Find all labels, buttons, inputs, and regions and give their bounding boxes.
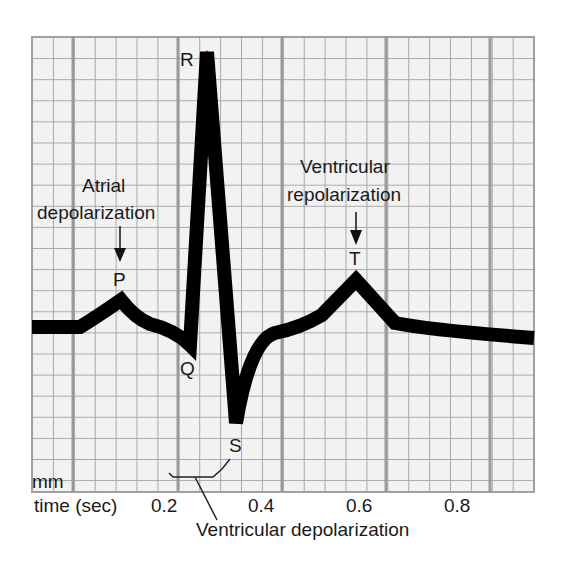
atrial-label-line1: Atrial	[82, 175, 125, 196]
unit-label-mm: mm	[32, 471, 64, 492]
axis-title-time: time (sec)	[34, 495, 117, 516]
ventricular-repol-line2: repolarization	[287, 184, 401, 205]
wave-label-s: S	[229, 435, 242, 456]
wave-label-t: T	[349, 248, 361, 269]
wave-label-q: Q	[180, 358, 195, 379]
ventricular-repol-line1: Ventricular	[300, 156, 390, 177]
ecg-diagram: R P Q S T Atrial depolarization Ventricu…	[0, 0, 561, 574]
tick-0-6: 0.6	[346, 495, 372, 516]
tick-0-4: 0.4	[248, 495, 275, 516]
tick-0-2: 0.2	[151, 495, 177, 516]
wave-label-p: P	[113, 269, 126, 290]
wave-label-r: R	[180, 49, 194, 70]
ventricular-depol-label: Ventricular depolarization	[196, 519, 409, 540]
tick-0-8: 0.8	[444, 495, 470, 516]
ecg-grid	[32, 37, 534, 492]
atrial-label-line2: depolarization	[37, 202, 155, 223]
